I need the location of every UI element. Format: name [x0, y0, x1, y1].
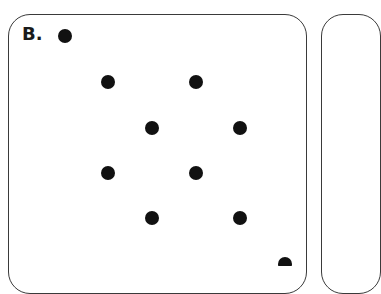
- dot-6: [101, 166, 115, 180]
- dot-3: [189, 75, 203, 89]
- dot-8: [145, 211, 159, 225]
- dot-2: [101, 75, 115, 89]
- dot-5: [233, 121, 247, 135]
- dot-1: [58, 29, 72, 43]
- dot-7: [189, 166, 203, 180]
- adjacent-panel-frame: [321, 14, 381, 294]
- dot-10: [278, 257, 292, 266]
- dot-4: [145, 121, 159, 135]
- dot-9: [233, 211, 247, 225]
